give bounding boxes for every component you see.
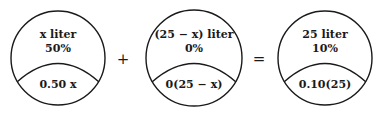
container-3-volume-label: 25 liter — [302, 28, 348, 41]
container-1-amount-label: 0.50 x — [39, 78, 77, 91]
container-1: x liter 50% 0.50 x — [11, 11, 105, 105]
container-3-amount-label: 0.10(25) — [299, 78, 352, 91]
equals-operator: = — [253, 50, 266, 68]
container-2-circle — [146, 10, 242, 106]
container-2-volume-label: (25 − x) liter — [154, 28, 233, 41]
container-3: 25 liter 10% 0.10(25) — [278, 11, 372, 105]
plus-operator: + — [117, 50, 130, 68]
container-2-amount-label: 0(25 − x) — [166, 78, 223, 91]
mixture-diagram: x liter 50% 0.50 x + (25 − x) liter 0% 0… — [0, 0, 384, 118]
container-1-percent-label: 50% — [45, 42, 71, 55]
container-2-percent-label: 0% — [185, 42, 204, 55]
container-3-percent-label: 10% — [312, 42, 338, 55]
container-2: (25 − x) liter 0% 0(25 − x) — [146, 10, 242, 106]
container-1-volume-label: x liter — [40, 28, 77, 41]
